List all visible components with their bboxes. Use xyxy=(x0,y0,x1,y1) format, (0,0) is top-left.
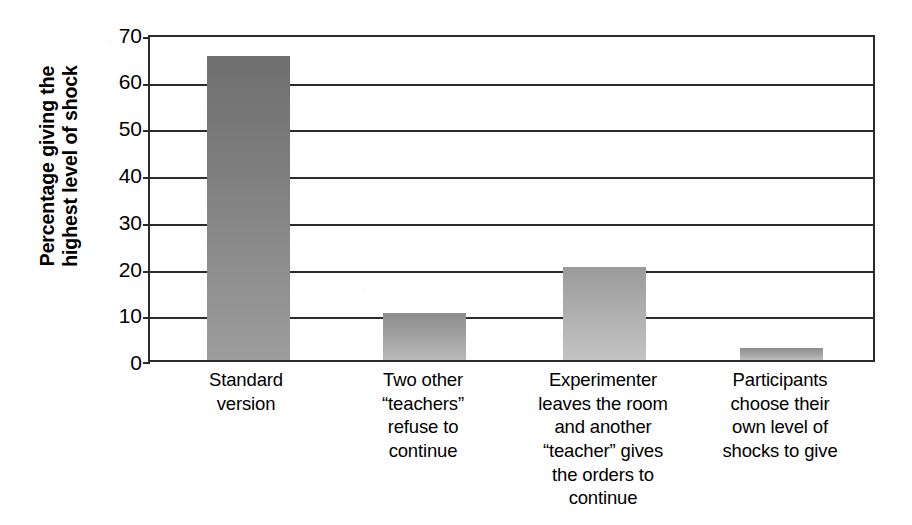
x-label-line: Participants xyxy=(710,368,850,392)
x-label-standard-version: Standard version xyxy=(176,368,316,415)
y-tickmark-30 xyxy=(143,224,150,226)
x-label-experimenter-leaves-room: Experimenter leaves the room and another… xyxy=(517,368,689,510)
x-label-line: “teachers” xyxy=(353,392,493,416)
x-label-line: leaves the room xyxy=(517,392,689,416)
x-axis-category-labels: Standard version Two other “teachers” re… xyxy=(148,368,875,518)
bar-fill xyxy=(383,313,466,360)
y-tick-label-0: 0 xyxy=(96,352,142,373)
bar-standard-version xyxy=(207,56,290,360)
bar-fill xyxy=(563,267,646,360)
y-tick-label-30: 30 xyxy=(96,212,142,233)
y-tick-label-50: 50 xyxy=(96,118,142,139)
x-label-line: Experimenter xyxy=(517,368,689,392)
x-label-participants-choose-own-level: Participants choose their own level of s… xyxy=(710,368,850,463)
bar-two-other-teachers-refuse xyxy=(383,313,466,360)
x-label-line: continue xyxy=(353,439,493,463)
bar-fill xyxy=(740,348,823,360)
y-tick-label-20: 20 xyxy=(96,259,142,280)
x-label-line: Two other xyxy=(353,368,493,392)
x-label-line: shocks to give xyxy=(710,439,850,463)
bar-experimenter-leaves-room xyxy=(563,267,646,360)
y-tick-label-40: 40 xyxy=(96,165,142,186)
y-tickmark-70 xyxy=(143,37,150,39)
x-label-line: and another xyxy=(517,415,689,439)
y-tickmark-40 xyxy=(143,177,150,179)
x-label-line: Standard xyxy=(176,368,316,392)
bar-participants-choose-own-level xyxy=(740,348,823,360)
x-label-line: the orders to xyxy=(517,463,689,487)
y-axis-title-line-2: highest level of shock xyxy=(59,65,82,267)
y-tickmark-50 xyxy=(143,130,150,132)
y-tickmark-0 xyxy=(143,362,150,364)
x-label-two-other-teachers-refuse: Two other “teachers” refuse to continue xyxy=(353,368,493,463)
y-axis-title: Percentage giving the highest level of s… xyxy=(31,1,87,331)
y-tick-label-10: 10 xyxy=(96,305,142,326)
x-label-line: version xyxy=(176,392,316,416)
bar-fill xyxy=(207,56,290,360)
x-label-line: continue xyxy=(517,486,689,510)
x-label-line: “teacher” gives xyxy=(517,439,689,463)
y-tickmark-20 xyxy=(143,271,150,273)
y-tick-label-60: 60 xyxy=(96,71,142,92)
bar-chart-figure: Percentage giving the highest level of s… xyxy=(0,0,912,525)
x-label-line: refuse to xyxy=(353,415,493,439)
y-tick-label-70: 70 xyxy=(96,25,142,46)
y-tickmark-60 xyxy=(143,84,150,86)
x-label-line: choose their xyxy=(710,392,850,416)
x-label-line: own level of xyxy=(710,415,850,439)
y-axis-title-line-1: Percentage giving the xyxy=(36,66,59,267)
y-tickmark-10 xyxy=(143,317,150,319)
plot-area xyxy=(148,35,875,362)
y-axis-tick-labels: 70 60 50 40 30 20 10 0 xyxy=(86,0,142,525)
